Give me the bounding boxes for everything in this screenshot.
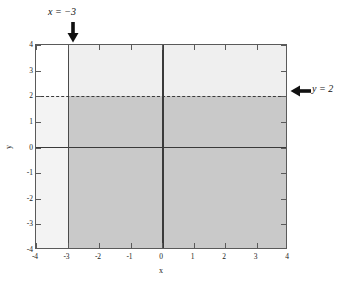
x-tick-mark bbox=[225, 45, 226, 50]
y-tick-label: 2 bbox=[24, 91, 33, 100]
y-tick-mark bbox=[281, 173, 286, 174]
annotation-y-boundary-label: y = 2 bbox=[312, 83, 333, 94]
x-tick-label: -2 bbox=[95, 252, 101, 261]
region-x-halfplane-only bbox=[68, 45, 287, 96]
x-tick-mark bbox=[99, 45, 100, 50]
x-tick-label: 4 bbox=[285, 252, 289, 261]
x-tick-mark bbox=[162, 243, 163, 248]
region-intersection bbox=[68, 96, 287, 248]
x-tick-label: 1 bbox=[191, 252, 195, 261]
y-tick-mark bbox=[36, 71, 41, 72]
y-tick-mark bbox=[281, 148, 286, 149]
x-tick-mark bbox=[131, 243, 132, 248]
x-tick-mark bbox=[99, 243, 100, 248]
y-tick-mark bbox=[281, 122, 286, 123]
y-tick-label: 0 bbox=[24, 142, 33, 151]
y-axis-line bbox=[162, 45, 164, 248]
x-tick-mark bbox=[162, 45, 163, 50]
y-tick-mark bbox=[36, 122, 41, 123]
x-tick-mark bbox=[257, 243, 258, 248]
arrow-left-icon bbox=[290, 85, 311, 97]
y-tick-mark bbox=[36, 199, 41, 200]
x-tick-mark bbox=[194, 243, 195, 248]
y-tick-mark bbox=[281, 96, 286, 97]
x-tick-mark bbox=[68, 243, 69, 248]
y-tick-label: -1 bbox=[24, 168, 33, 177]
x-tick-mark bbox=[257, 45, 258, 50]
x-tick-mark bbox=[131, 45, 132, 50]
boundary-line-y-eq-2 bbox=[36, 96, 286, 97]
figure-container: x = −3 y = 2 -4-3-2-10123443210-1-2-3-4 … bbox=[0, 0, 348, 285]
y-axis-title: y bbox=[4, 145, 13, 149]
arrow-down-icon bbox=[67, 22, 79, 43]
x-tick-label: 0 bbox=[159, 252, 163, 261]
y-tick-mark bbox=[281, 45, 286, 46]
y-tick-label: 4 bbox=[24, 40, 33, 49]
plot-area bbox=[35, 44, 287, 249]
x-tick-mark bbox=[194, 45, 195, 50]
y-tick-mark bbox=[36, 96, 41, 97]
y-tick-mark bbox=[36, 224, 41, 225]
x-axis-line bbox=[36, 147, 286, 149]
y-tick-mark bbox=[36, 173, 41, 174]
boundary-line-x-eq-neg3 bbox=[68, 45, 70, 248]
x-tick-label: 2 bbox=[222, 252, 226, 261]
y-tick-label: 1 bbox=[24, 116, 33, 125]
x-tick-mark bbox=[225, 243, 226, 248]
annotation-x-boundary-label: x = −3 bbox=[48, 6, 76, 17]
y-tick-label: -3 bbox=[24, 219, 33, 228]
y-tick-label: -2 bbox=[24, 193, 33, 202]
y-tick-label: -4 bbox=[24, 245, 33, 254]
y-tick-mark bbox=[36, 45, 41, 46]
x-tick-label: -3 bbox=[63, 252, 69, 261]
y-tick-mark bbox=[281, 71, 286, 72]
y-tick-label: 3 bbox=[24, 65, 33, 74]
x-tick-mark bbox=[36, 243, 37, 248]
x-axis-title: x bbox=[159, 266, 163, 275]
y-tick-mark bbox=[36, 148, 41, 149]
y-tick-mark bbox=[281, 224, 286, 225]
x-tick-label: 3 bbox=[254, 252, 258, 261]
y-tick-mark bbox=[281, 199, 286, 200]
x-tick-label: -1 bbox=[126, 252, 132, 261]
x-tick-mark bbox=[68, 45, 69, 50]
